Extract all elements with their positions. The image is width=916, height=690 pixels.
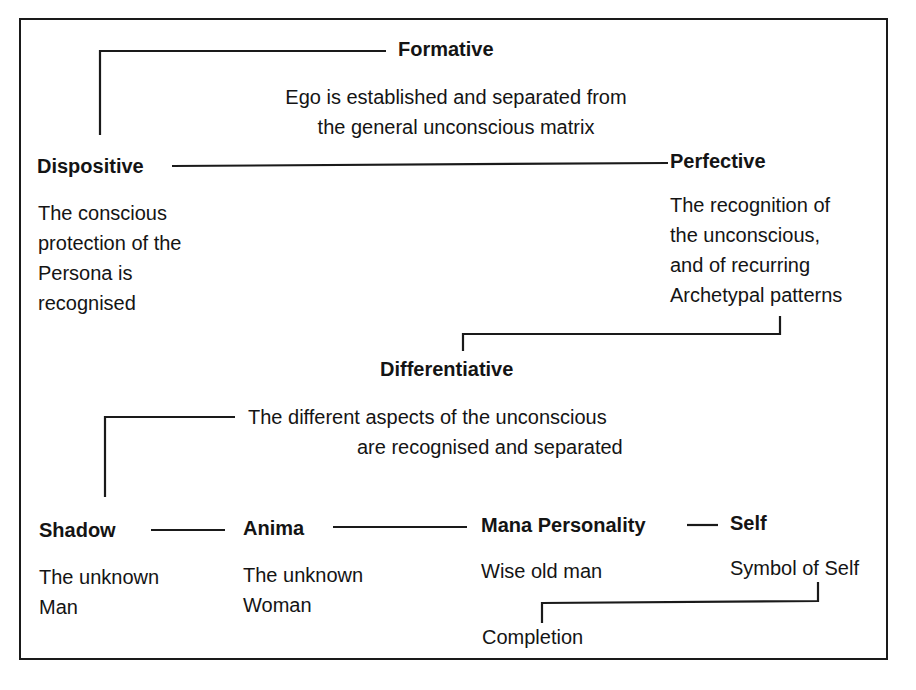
stage-dispositive-title: Dispositive	[37, 151, 144, 181]
connector-differentiative-shadow	[105, 417, 235, 497]
connector-perfective-differentiative	[463, 316, 780, 351]
archetype-anima-title: Anima	[243, 513, 304, 543]
stage-perfective-description: The recognition of the unconscious, and …	[670, 190, 842, 310]
stage-differentiative-description-line2: are recognised and separated	[357, 432, 623, 462]
archetype-shadow-description: The unknown Man	[39, 562, 159, 622]
stage-dispositive-description: The conscious protection of the Persona …	[38, 198, 181, 318]
archetype-self-title: Self	[730, 508, 767, 538]
archetype-shadow-title: Shadow	[39, 515, 116, 545]
connector-dispositive-perfective	[172, 163, 668, 166]
stage-differentiative-description-line1: The different aspects of the unconscious	[248, 402, 607, 432]
connector-self-completion	[542, 582, 818, 623]
archetype-mana-personality-description: Wise old man	[481, 556, 602, 586]
stage-formative-description: Ego is established and separated from th…	[250, 82, 662, 142]
archetype-mana-personality-title: Mana Personality	[481, 510, 646, 540]
stage-formative-title: Formative	[398, 34, 494, 64]
completion-label: Completion	[482, 622, 583, 652]
stage-perfective-title: Perfective	[670, 146, 766, 176]
archetype-anima-description: The unknown Woman	[243, 560, 363, 620]
archetype-self-description: Symbol of Self	[730, 553, 859, 583]
stage-differentiative-title: Differentiative	[380, 354, 513, 384]
